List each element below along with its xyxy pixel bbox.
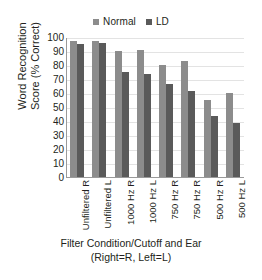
x-axis-tick-cell: 1000 Hz L bbox=[133, 180, 155, 232]
x-axis-tick-labels: Unfiltered RUnfiltered L1000 Hz R1000 Hz… bbox=[66, 180, 244, 232]
legend-entry-normal: Normal bbox=[93, 17, 136, 27]
y-axis-tick-label: 70 bbox=[40, 75, 64, 85]
bar-normal bbox=[115, 51, 122, 178]
bar-ld bbox=[122, 72, 129, 178]
y-axis-tick-label: 100 bbox=[40, 33, 64, 43]
y-axis-tick-label: 50 bbox=[40, 103, 64, 113]
bar-normal bbox=[137, 50, 144, 178]
bar-ld bbox=[144, 74, 151, 178]
bar-ld bbox=[233, 123, 240, 178]
y-axis-tick-label: 80 bbox=[40, 61, 64, 71]
bar-ld bbox=[188, 91, 195, 179]
x-axis-tick-label: 500 Hz L bbox=[237, 180, 247, 218]
chart-figure: Normal LD Word Recognition Score (% Corr… bbox=[0, 0, 262, 280]
bar-group bbox=[200, 38, 222, 178]
y-axis-tick-label: 40 bbox=[40, 117, 64, 127]
y-axis-tick-label: 10 bbox=[40, 159, 64, 169]
legend-swatch-normal bbox=[93, 19, 99, 25]
y-axis-tick-label: 90 bbox=[40, 47, 64, 57]
y-axis-tick-labels: 1009080706050403020100 bbox=[40, 38, 64, 178]
y-axis-tick-label: 60 bbox=[40, 89, 64, 99]
bar-group bbox=[88, 38, 110, 178]
bar-normal bbox=[204, 100, 211, 178]
x-axis-tick-cell: 500 Hz R bbox=[200, 180, 222, 232]
x-axis-tick-cell: 1000 Hz R bbox=[111, 180, 133, 232]
bar-group bbox=[177, 38, 199, 178]
y-axis-tick-label: 20 bbox=[40, 145, 64, 155]
x-axis-line bbox=[66, 177, 244, 178]
bar-ld bbox=[99, 43, 106, 178]
bar-group bbox=[111, 38, 133, 178]
bar-normal bbox=[92, 41, 99, 178]
bar-normal bbox=[226, 93, 233, 178]
y-axis-tick-label: 30 bbox=[40, 131, 64, 141]
x-axis-title-line-2: (Right=R, Left=L) bbox=[0, 250, 262, 264]
x-axis-tick-cell: 750 Hz R bbox=[155, 180, 177, 232]
bar-group bbox=[155, 38, 177, 178]
legend-swatch-ld bbox=[146, 19, 152, 25]
bar-group bbox=[66, 38, 88, 178]
x-axis-tick-cell: 750 Hz R bbox=[177, 180, 199, 232]
x-axis-tick-cell: Unfiltered R bbox=[66, 180, 88, 232]
legend-entry-ld: LD bbox=[146, 17, 169, 27]
plot-area bbox=[66, 38, 244, 178]
bar-groups bbox=[66, 38, 244, 178]
legend-label-ld: LD bbox=[156, 17, 169, 27]
bar-normal bbox=[181, 61, 188, 178]
x-axis-title-line-1: Filter Condition/Cutoff and Ear bbox=[0, 236, 262, 250]
bar-ld bbox=[166, 84, 173, 178]
bar-ld bbox=[211, 116, 218, 178]
legend-label-normal: Normal bbox=[103, 17, 136, 27]
x-axis-tick-cell: 500 Hz L bbox=[222, 180, 244, 232]
bar-ld bbox=[77, 44, 84, 178]
y-axis-title-line-1: Word Recognition bbox=[16, 22, 29, 109]
bar-normal bbox=[70, 41, 77, 178]
x-axis-tick-cell: Unfiltered L bbox=[88, 180, 110, 232]
bar-normal bbox=[159, 65, 166, 178]
x-axis-title: Filter Condition/Cutoff and Ear (Right=R… bbox=[0, 236, 262, 264]
y-axis-tick-label: 0 bbox=[40, 173, 64, 183]
bar-group bbox=[133, 38, 155, 178]
bar-group bbox=[222, 38, 244, 178]
